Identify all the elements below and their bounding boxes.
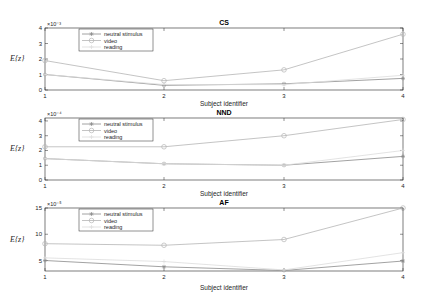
asterisk-marker-icon — [401, 154, 405, 158]
plus-marker-icon — [282, 83, 286, 87]
series-line-neutral-stimulus — [45, 75, 403, 86]
legend-entry: reading — [104, 44, 122, 50]
subplot-title: CS — [219, 19, 229, 26]
legend-entry: neutral stimulus — [104, 31, 143, 37]
y-tick-label: 10 — [35, 231, 42, 237]
x-axis-label: Subject identifier — [200, 100, 249, 108]
y-axis-label: E{z} — [9, 54, 25, 63]
legend-entry: video — [104, 128, 117, 134]
subplot-cs: 012341234×10⁻³CSSubject identifierE{z}ne… — [9, 19, 405, 108]
x-tick-label: 2 — [162, 274, 166, 280]
x-tick-label: 1 — [43, 93, 47, 99]
x-tick-label: 1 — [43, 274, 47, 280]
legend-entry: reading — [104, 134, 122, 140]
y-tick-label: 2 — [39, 56, 43, 62]
legend: neutral stimulusvideoreading — [79, 209, 153, 231]
plus-marker-icon — [401, 148, 405, 152]
x-tick-label: 4 — [401, 183, 405, 189]
series-line-reading — [45, 150, 403, 165]
asterisk-marker-icon — [162, 265, 166, 269]
legend-entry: video — [104, 38, 117, 44]
plus-marker-icon — [162, 83, 166, 87]
subplot-af: 510151234×10⁻⁵AFSubject identifierE{z}ne… — [9, 199, 405, 292]
y-tick-label: 5 — [39, 258, 43, 264]
y-tick-label: 15 — [35, 205, 42, 211]
chart-figure: 012341234×10⁻³CSSubject identifierE{z}ne… — [0, 0, 427, 307]
y-exponent-label: ×10⁻⁵ — [47, 201, 62, 207]
y-axis-label: E{z} — [9, 235, 25, 244]
y-tick-label: 3 — [39, 133, 43, 139]
legend-entry: video — [104, 218, 117, 224]
x-tick-label: 4 — [401, 274, 405, 280]
plus-marker-icon — [401, 73, 405, 77]
subplot-title: AF — [219, 199, 229, 206]
y-tick-label: 0 — [39, 87, 43, 93]
legend-entry: neutral stimulus — [104, 121, 143, 127]
plus-marker-icon — [162, 260, 166, 264]
asterisk-marker-icon — [90, 122, 94, 126]
y-exponent-label: ×10⁻³ — [47, 21, 61, 27]
y-tick-label: 2 — [39, 147, 43, 153]
asterisk-marker-icon — [90, 32, 94, 36]
y-tick-label: 4 — [39, 25, 43, 31]
x-axis-label: Subject identifier — [200, 284, 249, 292]
plus-marker-icon — [401, 251, 405, 255]
y-tick-label: 4 — [39, 118, 43, 124]
legend: neutral stimulusvideoreading — [79, 119, 153, 141]
x-tick-label: 3 — [282, 183, 286, 189]
y-tick-label: 0 — [39, 177, 43, 183]
y-exponent-label: ×10⁻⁴ — [47, 111, 62, 117]
subplot-title: NND — [216, 109, 231, 116]
x-tick-label: 2 — [162, 93, 166, 99]
asterisk-marker-icon — [90, 212, 94, 216]
subplot-nnd: 012341234×10⁻⁴NNDSubject identifierE{z}n… — [9, 109, 405, 198]
series-line-reading — [45, 253, 403, 270]
y-tick-label: 1 — [39, 162, 43, 168]
y-tick-label: 3 — [39, 41, 43, 47]
x-tick-label: 3 — [282, 93, 286, 99]
x-tick-label: 2 — [162, 183, 166, 189]
x-tick-label: 1 — [43, 183, 47, 189]
x-tick-label: 3 — [282, 274, 286, 280]
x-tick-label: 4 — [401, 93, 405, 99]
y-axis-label: E{z} — [9, 144, 25, 153]
asterisk-marker-icon — [401, 259, 405, 263]
x-axis-label: Subject identifier — [200, 190, 249, 198]
legend: neutral stimulusvideoreading — [79, 29, 153, 51]
plus-marker-icon — [282, 268, 286, 272]
y-tick-label: 1 — [39, 72, 43, 78]
legend-entry: neutral stimulus — [104, 211, 143, 217]
legend-entry: reading — [104, 224, 122, 230]
